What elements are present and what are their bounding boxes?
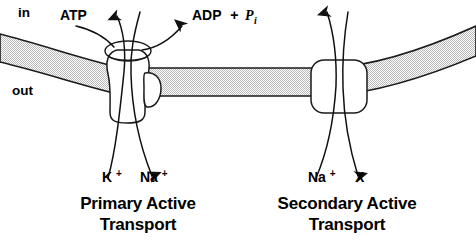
svg-text:X: X [355,169,365,185]
phosphate-subscript: i [254,15,257,26]
lipid-membrane-band [0,26,476,96]
primary-ion-right-charge: + [162,168,168,179]
secondary-ion-left: Na [308,169,326,185]
svg-text:Na +: Na + [140,168,168,185]
svg-text:Na +: Na + [308,168,336,185]
label-adp-phosphate: ADP + P i [192,7,257,26]
primary-caption: Primary Active Transport [80,194,196,234]
secondary-caption-line2: Transport [309,215,386,234]
primary-pump-protein[interactable] [105,41,161,123]
label-atp: ATP [60,7,87,23]
atp-input-arrow [76,26,114,47]
secondary-ion-right: X [355,169,365,185]
pump-subunit-lobe [144,73,161,107]
primary-ion-labels: K + Na + [102,168,168,185]
svg-text:K +: K + [102,168,122,185]
svg-text:ADP +: ADP + [192,7,238,23]
secondary-carrier-protein[interactable] [311,60,367,113]
secondary-ion-left-charge: + [330,168,336,179]
primary-ion-right: Na [140,169,158,185]
carrier-body [311,60,367,113]
primary-ion-left: K [102,169,112,185]
secondary-ion-labels: Na + X [308,168,365,185]
adp-text: ADP [192,7,221,23]
primary-caption-line1: Primary Active [80,194,196,213]
transport-diagram: in out ATP ADP + P i K + Na + Na [0,0,476,244]
label-inside: in [18,5,30,20]
adp-plus: + [230,7,238,23]
primary-caption-line2: Transport [100,215,177,234]
secondary-caption-line1: Secondary Active [278,194,417,213]
phosphate-symbol: P [245,8,254,23]
primary-ion-left-charge: + [116,168,122,179]
label-outside: out [12,83,33,98]
secondary-caption: Secondary Active Transport [278,194,417,234]
atp-hydrolysis-arrows [76,26,182,50]
diagram-canvas: in out ATP ADP + P i K + Na + Na [0,0,476,244]
